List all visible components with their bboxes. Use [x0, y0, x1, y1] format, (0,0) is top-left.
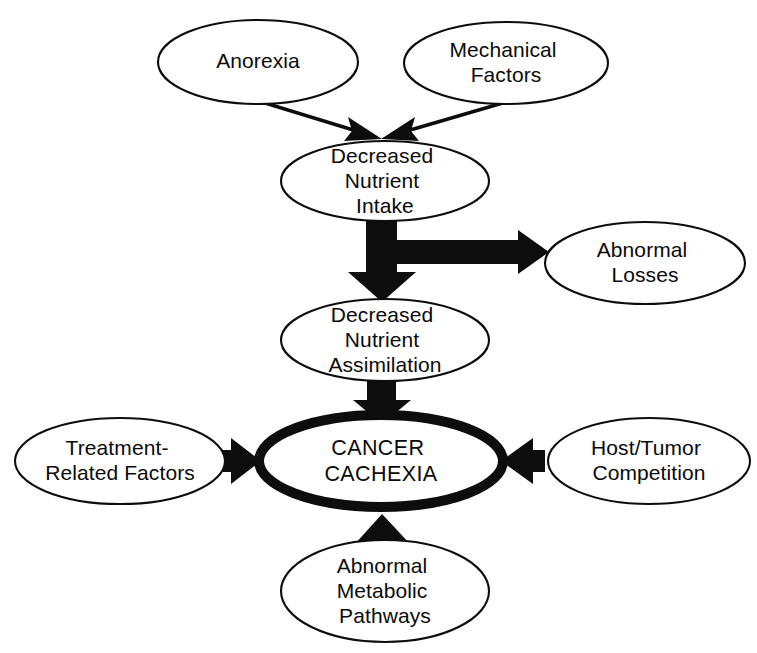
arrow-intake-to-abnormal-losses	[395, 230, 549, 274]
diagram-canvas: Anorexia Mechanical Factors Decreased Nu…	[0, 0, 757, 653]
node-mechanical-factors[interactable]: Mechanical Factors	[404, 22, 608, 104]
node-decreased-nutrient-intake[interactable]: Decreased Nutrient Intake	[281, 141, 489, 221]
node-anorexia-label: Anorexia	[216, 49, 300, 72]
node-anorexia[interactable]: Anorexia	[158, 20, 358, 104]
node-abnormal-losses[interactable]: Abnormal Losses	[545, 222, 745, 304]
arrow-anorexia-to-intake	[252, 99, 382, 141]
node-abnormal-metabolic-pathways[interactable]: Abnormal Metabolic Pathways	[281, 540, 489, 642]
node-abnormal-metabolic-pathways-label: Abnormal Metabolic Pathways	[337, 554, 434, 627]
arrow-mechanical-factors-to-intake	[381, 100, 513, 141]
cancer-cachexia-diagram: Anorexia Mechanical Factors Decreased Nu…	[0, 0, 757, 653]
node-cancer-cachexia[interactable]: CANCER CACHEXIA	[259, 415, 503, 507]
node-treatment-related-factors[interactable]: Treatment- Related Factors	[15, 418, 225, 504]
node-decreased-nutrient-assimilation[interactable]: Decreased Nutrient Assimilation	[281, 299, 489, 381]
node-decreased-nutrient-assimilation-label: Decreased Nutrient Assimilation	[328, 303, 441, 376]
node-host-tumor-competition[interactable]: Host/Tumor Competition	[548, 418, 750, 504]
